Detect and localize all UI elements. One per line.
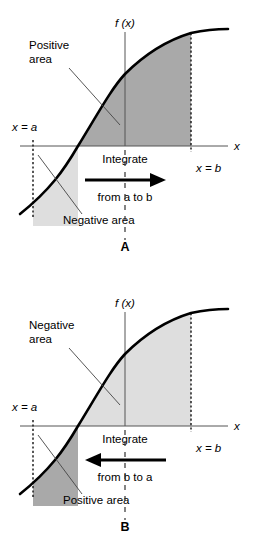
panel-b-x-equals-a-label: x = a [11,401,37,413]
integral-signed-area-figure: x f (x) x = a x = b Positive area Negati… [0,0,261,560]
panel-a-positive-area-label-line2: area [29,53,53,65]
panel-b-negative-area-label-line1: Negative [29,319,74,331]
panel-a-letter: A [120,240,129,254]
panel-a-function-label: f (x) [115,17,135,29]
panel-b-letter: B [120,520,129,534]
panel-b-x-equals-b-label: x = b [195,442,222,454]
panel-b-positive-area-label: Positive area [63,494,130,506]
panel-a-x-equals-a-label: x = a [11,121,37,133]
panel-b: x f (x) x = a x = b Negative area Positi… [0,280,261,560]
panel-a-x-axis-label: x [233,140,241,152]
panel-a-positive-area-label-line1: Positive [29,39,69,51]
panel-b-x-axis-label: x [233,420,241,432]
panel-a: x f (x) x = a x = b Positive area Negati… [0,0,261,280]
panel-b-function-label: f (x) [115,297,135,309]
panel-a-integrate-arrow-head [150,173,166,187]
panel-a-negative-area-label: Negative area [63,214,135,226]
panel-b-integrate-arrow-head [85,453,101,467]
panel-a-x-equals-b-label: x = b [195,162,222,174]
panel-b-negative-area-label-line2: area [29,333,53,345]
